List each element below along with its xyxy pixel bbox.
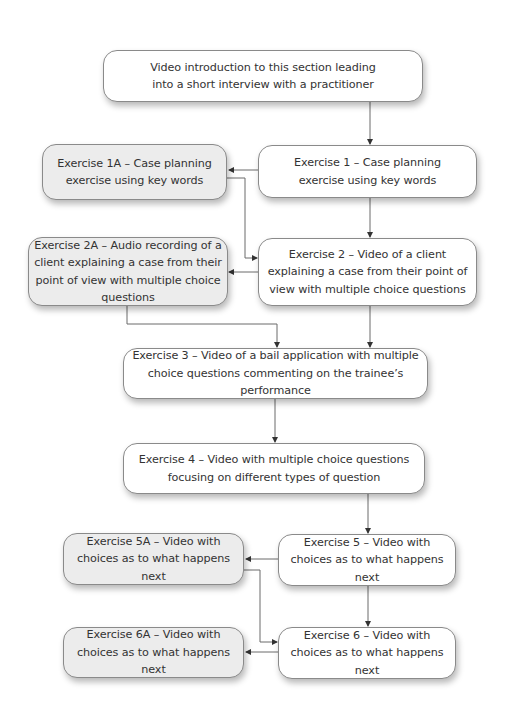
edge-ex5a-ex6 <box>244 570 277 642</box>
node-exercise-2a: Exercise 2A – Audio recording of a clien… <box>28 237 228 306</box>
node-exercise-3: Exercise 3 – Video of a bail application… <box>123 348 428 399</box>
node-exercise-5a: Exercise 5A – Video with choices as to w… <box>63 533 244 585</box>
edge-ex2a-ex3 <box>127 306 277 347</box>
node-exercise-4: Exercise 4 – Video with multiple choice … <box>123 443 425 494</box>
node-exercise-6a: Exercise 6A – Video with choices as to w… <box>63 627 244 678</box>
node-exercise-6: Exercise 6 – Video with choices as to wh… <box>278 627 456 679</box>
node-exercise-2: Exercise 2 – Video of a client explainin… <box>258 238 477 306</box>
node-exercise-5: Exercise 5 – Video with choices as to wh… <box>278 534 456 586</box>
node-intro: Video introduction to this section leadi… <box>103 50 423 102</box>
edge-ex1a-ex2 <box>227 178 257 258</box>
node-exercise-1a: Exercise 1A – Case planning exercise usi… <box>42 144 227 200</box>
node-exercise-1: Exercise 1 – Case planning exercise usin… <box>258 145 477 198</box>
